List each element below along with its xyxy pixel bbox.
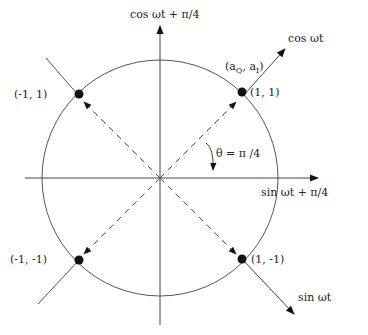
point-label-m1-m1: (-1, -1) [10, 253, 47, 266]
point-label-1-1: (1, 1) [250, 86, 280, 99]
vector-1-1 [160, 102, 236, 178]
angle-arc [206, 143, 213, 170]
sin-wt-axis-lower [243, 260, 294, 314]
point-label-m1-1: (-1, 1) [14, 88, 47, 101]
point-1-m1 [238, 255, 247, 264]
sin-wt-label: sin ωt [298, 291, 332, 304]
vector-1-m1 [160, 178, 236, 254]
vertical-axis-label: cos ωt + π/4 [130, 8, 199, 21]
point-m1-1 [75, 90, 84, 99]
point-m1-m1 [75, 256, 84, 265]
cos-wt-axis-lower [38, 260, 79, 304]
vector-m1-m1 [84, 178, 160, 254]
vector-m1-1 [84, 102, 160, 178]
vector-label: (aQ, aI) [225, 60, 263, 75]
constellation-diagram: cos ωt + π/4 sin ωt + π/4 cos ωt sin ωt … [0, 0, 368, 335]
angle-label: θ = π /4 [216, 147, 260, 160]
point-label-1-m1: (1, -1) [251, 253, 284, 266]
cos-wt-label: cos ωt [288, 32, 324, 45]
horizontal-axis-label: sin ωt + π/4 [261, 186, 328, 199]
sin-wt-axis-upper [46, 58, 79, 96]
point-1-1 [238, 88, 247, 97]
